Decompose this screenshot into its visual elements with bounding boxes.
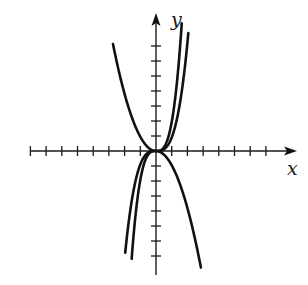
y-axis-label: y xyxy=(170,8,182,30)
curve-3 xyxy=(132,23,182,259)
x-axis-label: x xyxy=(287,157,298,179)
curves xyxy=(113,23,201,267)
y-axis xyxy=(151,13,161,275)
function-graph: y x xyxy=(0,0,308,285)
